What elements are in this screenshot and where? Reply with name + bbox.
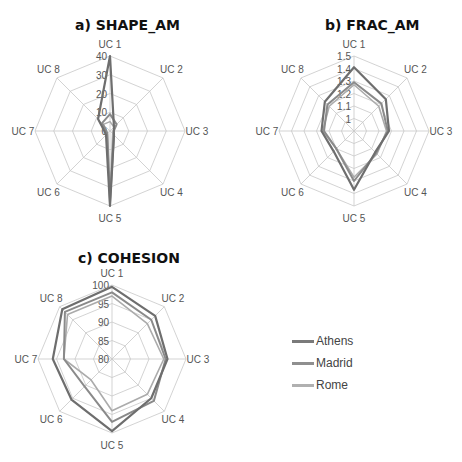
tick-label: 80 (98, 354, 110, 365)
axis-label: UC 5 (99, 213, 122, 224)
legend-swatch-madrid (292, 362, 314, 365)
axis-label: UC 8 (281, 64, 304, 75)
legend-swatch-athens (292, 340, 314, 343)
axis-label: UC 7 (12, 126, 35, 137)
axis-label: UC 4 (404, 187, 427, 198)
axis-label: UC 5 (101, 440, 124, 451)
axis-label: UC 8 (37, 64, 60, 75)
chart-frac-am: b) FRAC_AM UC 1UC 2UC 3UC 4UC 5UC 6UC 7U… (231, 0, 462, 231)
series-rome (64, 296, 164, 411)
legend-label: Madrid (316, 356, 353, 370)
axis-label: UC 1 (99, 39, 122, 50)
axis-label: UC 3 (186, 126, 209, 137)
tick-label: 90 (98, 317, 110, 328)
radar-plot: UC 1UC 2UC 3UC 4UC 5UC 6UC 7UC 811.11.21… (231, 0, 462, 231)
axis-label: UC 6 (37, 187, 60, 198)
axis-label: UC 3 (187, 354, 210, 365)
axis-label: UC 6 (281, 187, 304, 198)
legend-item-madrid: Madrid (292, 352, 353, 374)
chart-cohesion: c) COHESION UC 1UC 2UC 3UC 4UC 5UC 6UC 7… (0, 231, 231, 462)
legend-swatch-rome (292, 384, 314, 387)
legend-label: Athens (316, 334, 353, 348)
axis-label: UC 5 (343, 213, 366, 224)
axis-label: UC 4 (161, 414, 184, 425)
legend-item-athens: Athens (292, 330, 353, 352)
chart-title: a) SHAPE_AM (75, 17, 180, 33)
legend: Athens Madrid Rome (292, 330, 353, 396)
axis-label: UC 2 (161, 293, 184, 304)
tick-label: 85 (98, 336, 110, 347)
axis-label: UC 4 (160, 187, 183, 198)
chart-title: c) COHESION (78, 250, 180, 266)
tick-label: 1 (345, 114, 351, 125)
chart-title: b) FRAC_AM (325, 17, 420, 33)
tick-label: 40 (96, 51, 108, 62)
chart-shape-am: a) SHAPE_AM UC 1UC 2UC 3UC 4UC 5UC 6UC 7… (0, 0, 231, 231)
axis-label: UC 3 (430, 126, 453, 137)
radar-plot: UC 1UC 2UC 3UC 4UC 5UC 6UC 7UC 801020304… (0, 0, 231, 231)
tick-label: 1.5 (337, 51, 351, 62)
axis-label: UC 2 (404, 64, 427, 75)
axis-label: UC 7 (256, 126, 279, 137)
legend-label: Rome (316, 378, 348, 392)
axis-label: UC 7 (15, 354, 38, 365)
legend-item-rome: Rome (292, 374, 353, 396)
series-madrid (324, 82, 388, 181)
axis-label: UC 1 (101, 268, 124, 279)
axis-label: UC 1 (343, 39, 366, 50)
tick-label: 1.1 (337, 101, 351, 112)
axis-label: UC 8 (40, 293, 63, 304)
axis-label: UC 2 (160, 64, 183, 75)
axis-label: UC 6 (40, 414, 63, 425)
